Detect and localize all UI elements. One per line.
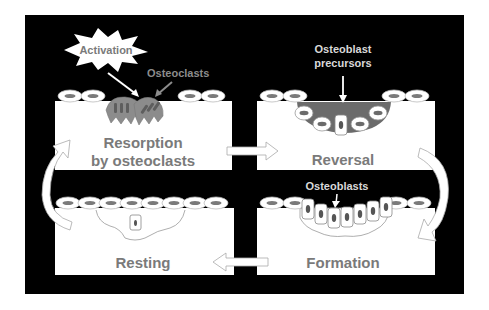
- activation-label: Activation: [79, 44, 132, 56]
- stage-formation-panel: Formation: [257, 197, 435, 275]
- stage-reversal-panel: Reversal: [257, 90, 435, 170]
- stage-resting-panel: Resting: [55, 197, 234, 275]
- stage-resting-label: Resting: [115, 254, 170, 271]
- stage-resorption-panel: Resorption by osteoclasts: [55, 90, 232, 170]
- bone-remodeling-diagram: Resorption by osteoclasts Activation Ost…: [0, 0, 489, 310]
- osteoblast-precursors-label-line2: precursors: [314, 57, 371, 69]
- osteoblasts-label: Osteoblasts: [306, 180, 369, 192]
- osteoclasts-label: Osteoclasts: [147, 67, 209, 79]
- stage-resorption-label: Resorption: [103, 134, 182, 151]
- stage-resorption-label-sub: by osteoclasts: [91, 152, 195, 169]
- stage-reversal-label: Reversal: [312, 151, 375, 168]
- osteoblast-precursors-label: Osteoblast: [315, 43, 372, 55]
- stage-formation-label: Formation: [306, 254, 379, 271]
